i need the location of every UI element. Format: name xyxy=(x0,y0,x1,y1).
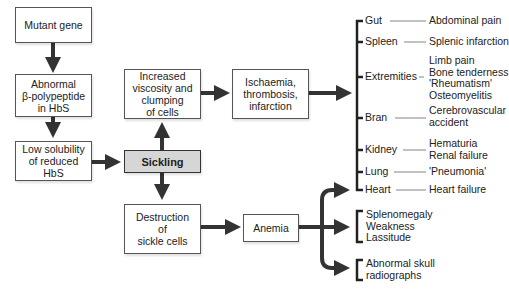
anemia-effect-splenomegaly: Splenomegaly Weakness Lassitude xyxy=(366,209,433,244)
effect-heart: Heart failure xyxy=(429,184,486,196)
organ-lung: Lung xyxy=(365,166,388,178)
node-ischaemia: Ischaemia, thrombosis, infarction xyxy=(232,69,309,119)
effect-brain: Cerebrovascular accident xyxy=(429,105,506,128)
organ-spleen: Spleen xyxy=(365,36,398,48)
organ-brain: Bran xyxy=(365,112,387,124)
effect-kidney: Hematuria Renal failure xyxy=(429,138,488,161)
anemia-effect-skull: Abnormal skull radiographs xyxy=(366,258,435,281)
node-abnormal-polypeptide: Abnormal β-polypeptide in HbS xyxy=(15,74,92,117)
organ-extremities: Extremities xyxy=(365,71,417,83)
effect-extremities: Limb pain Bone tenderness 'Rheumatism' O… xyxy=(429,55,508,101)
node-destruction: Destruction of sickle cells xyxy=(124,204,201,254)
organ-gut: Gut xyxy=(365,15,382,27)
node-low-solubility: Low solubility of reduced HbS xyxy=(15,141,92,181)
organ-heart: Heart xyxy=(365,184,391,196)
node-mutant-gene: Mutant gene xyxy=(15,7,92,43)
effect-gut: Abdominal pain xyxy=(429,15,501,27)
effect-spleen: Splenic infarction xyxy=(429,36,509,48)
organ-kidney: Kidney xyxy=(365,144,397,156)
node-increased-viscosity: Increased viscosity and clumping of cell… xyxy=(124,69,201,119)
node-sickling: Sickling xyxy=(124,150,201,173)
effect-lung: 'Pneumonia' xyxy=(429,166,486,178)
node-anemia: Anemia xyxy=(243,214,299,242)
